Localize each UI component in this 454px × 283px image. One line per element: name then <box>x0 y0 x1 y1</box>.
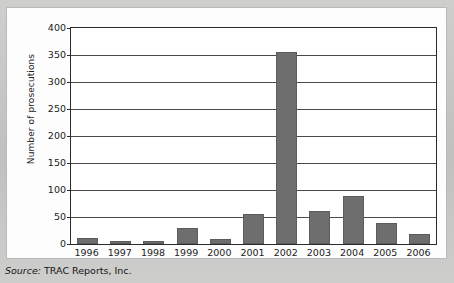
bar-1999[interactable] <box>177 228 198 244</box>
x-tick-label-2006: 2006 <box>402 247 435 258</box>
y-tick-label: 150 <box>48 158 66 168</box>
bar-2002[interactable] <box>276 52 297 244</box>
source-label: Source: <box>5 265 41 276</box>
x-tick-label-1997: 1997 <box>103 247 136 258</box>
bar-slot <box>237 28 270 244</box>
bar-slot <box>270 28 303 244</box>
bar-slot <box>71 28 104 244</box>
source-caption: Source: TRAC Reports, Inc. <box>5 265 132 276</box>
chart-figure: Number of prosecutions 05010015020025030… <box>0 0 454 283</box>
bar-2003[interactable] <box>309 211 330 244</box>
bar-slot <box>370 28 403 244</box>
bar-1998[interactable] <box>143 241 164 244</box>
y-tick-label: 200 <box>48 131 66 141</box>
bar-2004[interactable] <box>343 196 364 244</box>
bar-slot <box>104 28 137 244</box>
bar-2005[interactable] <box>376 223 397 244</box>
x-tick-label-1998: 1998 <box>136 247 169 258</box>
y-tick-label: 0 <box>60 239 66 249</box>
y-tick-label: 350 <box>48 50 66 60</box>
plot-area: 050100150200250300350400 <box>70 27 437 245</box>
y-tick-mark <box>67 244 71 245</box>
source-value: TRAC Reports, Inc. <box>41 265 132 276</box>
bar-slot <box>403 28 436 244</box>
y-tick-label: 300 <box>48 77 66 87</box>
bar-2006[interactable] <box>409 234 430 244</box>
bar-slot <box>337 28 370 244</box>
chart-panel: Number of prosecutions 05010015020025030… <box>6 7 447 259</box>
y-axis-title: Number of prosecutions <box>26 39 36 179</box>
bar-1996[interactable] <box>77 238 98 244</box>
bar-2000[interactable] <box>210 239 231 244</box>
bar-slot <box>137 28 170 244</box>
x-tick-label-2005: 2005 <box>369 247 402 258</box>
x-tick-label-2002: 2002 <box>269 247 302 258</box>
y-tick-label: 50 <box>54 212 66 222</box>
y-tick-label: 100 <box>48 185 66 195</box>
bar-slot <box>303 28 336 244</box>
x-tick-label-2004: 2004 <box>336 247 369 258</box>
bar-slot <box>204 28 237 244</box>
x-tick-label-2000: 2000 <box>203 247 236 258</box>
y-tick-label: 250 <box>48 104 66 114</box>
x-axis-labels: 1996199719981999200020012002200320042005… <box>70 247 435 258</box>
x-tick-label-2001: 2001 <box>236 247 269 258</box>
bar-1997[interactable] <box>110 241 131 244</box>
bar-series <box>71 28 436 244</box>
x-tick-label-1996: 1996 <box>70 247 103 258</box>
y-tick-label: 400 <box>48 23 66 33</box>
x-tick-label-2003: 2003 <box>302 247 335 258</box>
bar-slot <box>171 28 204 244</box>
bar-2001[interactable] <box>243 214 264 244</box>
x-tick-label-1999: 1999 <box>170 247 203 258</box>
